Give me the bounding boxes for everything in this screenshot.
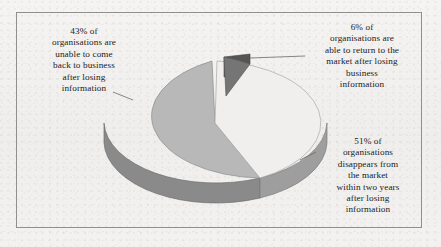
pie-label-6-line1: 6% of [302,22,422,33]
pie-label-51-line7: information [316,204,420,215]
leader-line-6 [250,56,305,58]
pie-label-43: 43% of organisations are unable to come … [22,26,146,94]
pie-label-51: 51% of organisations disappears from the… [316,136,420,216]
pie-label-51-line6: after losing [316,193,420,204]
pie-label-43-line5: after losing [22,72,146,83]
pie-label-43-line1: 43% of [22,26,146,37]
pie-label-51-line5: within two years [316,182,420,193]
pie-label-6-line2: organisations are [302,33,422,44]
pie-label-51-line4: the market [316,170,420,181]
pie-label-51-line2: organisations [316,147,420,158]
pie-label-51-line3: disappears from [316,159,420,170]
pie-label-43-line4: back to business [22,60,146,71]
pie-label-43-line6: information [22,83,146,94]
pie-label-6-line5: business [302,68,422,79]
pie-label-6-line6: information [302,79,422,90]
pie-label-43-line3: unable to come [22,49,146,60]
pie-label-6: 6% of organisations are able to return t… [302,22,422,90]
pie-label-51-line1: 51% of [316,136,420,147]
pie-label-6-line4: market after losing [302,56,422,67]
pie-label-43-line2: organisations are [22,37,146,48]
pie-label-6-line3: able to return to the [302,45,422,56]
